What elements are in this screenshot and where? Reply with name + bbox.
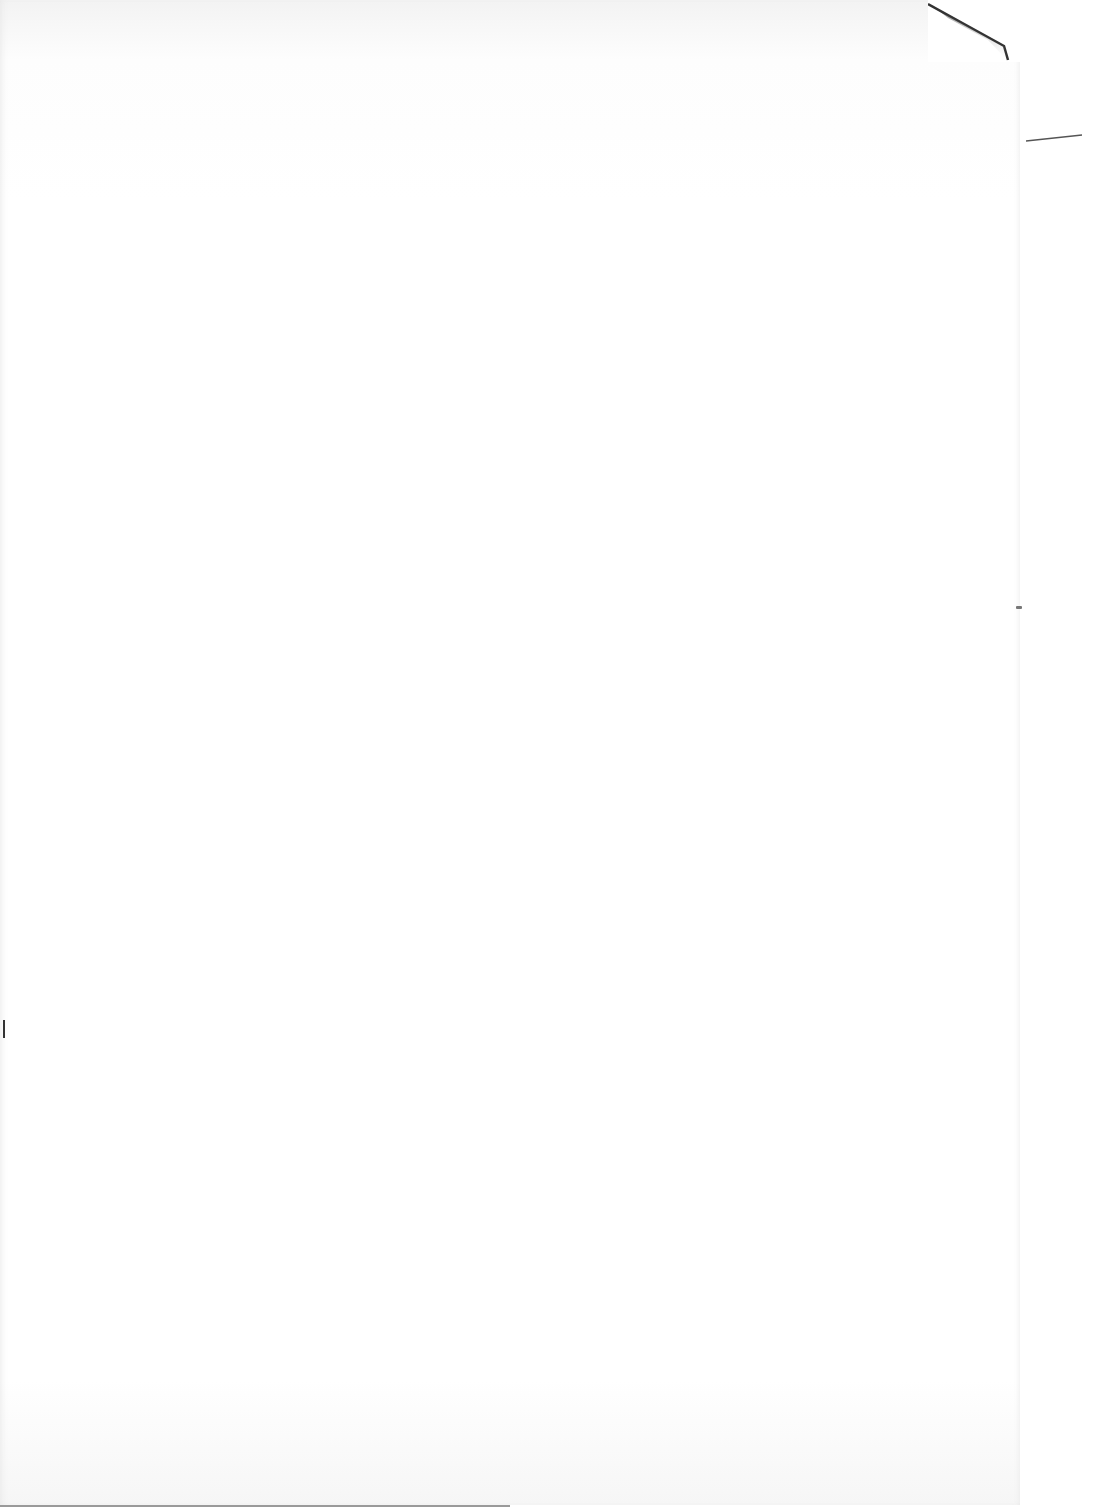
fold-shadow-icon [928,0,1020,62]
blank-page [0,0,1020,1505]
edge-mark [1016,606,1022,609]
bottom-edge-line [0,1505,510,1507]
page-content [80,80,940,1425]
dog-eared-corner [928,0,1020,62]
left-edge-mark [3,1020,5,1038]
stray-line-mark [1026,128,1086,148]
